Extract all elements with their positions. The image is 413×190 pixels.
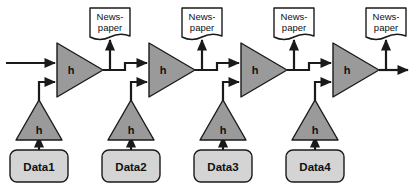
stage-4-main-amplifier-label: h	[344, 64, 351, 76]
stage-4-data-box[interactable]: Data4	[286, 150, 344, 182]
stage-3-main-amplifier-label: h	[252, 64, 259, 76]
stage-3-document-label-line2: paper	[282, 22, 306, 33]
stage-2-feeder-amplifier[interactable]: h	[108, 100, 154, 140]
stage-3-feeder-to-amp-wire	[223, 82, 239, 103]
stage-3-feeder-amplifier-label: h	[220, 124, 227, 136]
stage-4-document[interactable]: News- paper	[366, 8, 406, 40]
pipeline-diagram: Data1 h h News-	[0, 0, 413, 190]
stage-4-document-label-line2: paper	[374, 22, 398, 33]
stage-3-main-amplifier[interactable]: h	[241, 43, 287, 97]
stage-2-data-box[interactable]: Data2	[102, 150, 160, 182]
stage-2-document[interactable]: News- paper	[182, 8, 222, 40]
stage-2-data-label: Data2	[115, 161, 146, 173]
stage-1-data-label: Data1	[23, 161, 55, 173]
stage-3-feeder-amplifier[interactable]: h	[200, 100, 246, 140]
stage-4-feeder-amplifier[interactable]: h	[292, 100, 338, 140]
stage-1-main-amplifier[interactable]: h	[57, 43, 103, 97]
stage-2-feeder-to-amp-wire	[131, 82, 147, 103]
stage-3-document-label-line1: News-	[281, 11, 308, 22]
stage-3-document[interactable]: News- paper	[274, 8, 314, 40]
stage-3-data-label: Data3	[207, 161, 238, 173]
stage-2-main-amplifier-label: h	[160, 64, 167, 76]
stage-4-feeder-to-amp-wire	[315, 82, 331, 103]
stage-4-data-label: Data4	[299, 161, 331, 173]
stage-4-main-amplifier[interactable]: h	[333, 43, 379, 97]
stage-3-data-box[interactable]: Data3	[194, 150, 252, 182]
stage-1-main-amplifier-label: h	[68, 64, 75, 76]
stage-1-data-box[interactable]: Data1	[10, 150, 68, 182]
stage-1-feeder-amplifier-label: h	[36, 124, 43, 136]
stage-4-feeder-amplifier-label: h	[312, 124, 319, 136]
stage-2-document-label-line2: paper	[190, 22, 214, 33]
stage-2-feeder-amplifier-label: h	[128, 124, 135, 136]
stage-1-document-label-line2: paper	[98, 22, 122, 33]
stage-2-document-label-line1: News-	[189, 11, 216, 22]
stage-1-document-label-line1: News-	[97, 11, 124, 22]
stage-4-document-label-line1: News-	[373, 11, 400, 22]
stage-1-feeder-to-amp-wire	[39, 82, 55, 103]
diagram-canvas: Data1 h h News-	[0, 0, 413, 190]
stage-2-main-amplifier[interactable]: h	[149, 43, 195, 97]
stage-1-document[interactable]: News- paper	[90, 8, 130, 40]
stage-1-feeder-amplifier[interactable]: h	[16, 100, 62, 140]
